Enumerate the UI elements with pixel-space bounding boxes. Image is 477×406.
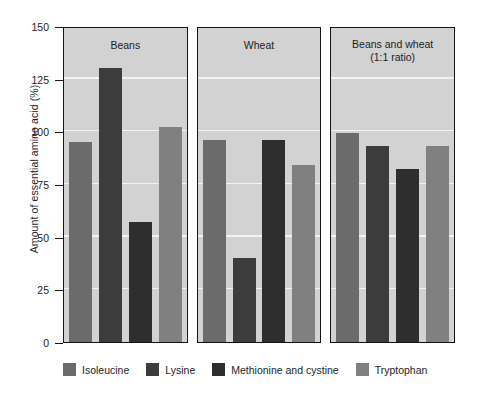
chart-figure: 0255075100125150 Amount of essential ami… [0,0,477,406]
y-tick-label: 0 [43,337,49,349]
legend-item[interactable]: Tryptophan [356,363,428,376]
legend-item[interactable]: Methionine and cystine [212,363,338,376]
y-tick-mark [55,343,63,344]
bar [159,127,182,342]
legend-label: Lysine [165,364,195,376]
legend-label: Tryptophan [375,364,428,376]
legend-item[interactable]: Lysine [146,363,195,376]
bar-group [64,28,187,342]
y-tick-mark [55,290,63,291]
chart-panel: Wheat [197,27,322,343]
y-tick-label: 150 [31,21,49,33]
y-tick-mark [55,27,63,28]
bar [69,142,92,342]
bar [262,140,285,342]
legend-swatch-icon [356,363,369,376]
y-axis-title: Amount of essential amino acid (%) [28,39,40,299]
panel-title: Beans [64,39,187,52]
y-tick-mark [55,185,63,186]
bar [396,169,419,342]
panel-title: Beans and wheat (1:1 ratio) [331,38,454,63]
legend-label: Isoleucine [82,364,129,376]
bar [292,165,315,342]
y-tick-mark [55,80,63,81]
bar [99,68,122,342]
chart-legend: IsoleucineLysineMethionine and cystineTr… [63,363,463,376]
legend-swatch-icon [212,363,225,376]
bar [336,133,359,342]
chart-panel: Beans and wheat (1:1 ratio) [330,27,455,343]
legend-item[interactable]: Isoleucine [63,363,129,376]
bar-group [198,28,321,342]
legend-swatch-icon [146,363,159,376]
legend-swatch-icon [63,363,76,376]
panel-title: Wheat [198,39,321,52]
bar [203,140,226,342]
plot-area: BeansWheatBeans and wheat (1:1 ratio) [63,27,455,343]
bar [129,222,152,342]
bar-group [331,28,454,342]
bar [366,146,389,342]
chart-panel: Beans [63,27,188,343]
y-tick-mark [55,238,63,239]
legend-label: Methionine and cystine [231,364,338,376]
bar [426,146,449,342]
y-tick-mark [55,132,63,133]
bar [233,258,256,342]
